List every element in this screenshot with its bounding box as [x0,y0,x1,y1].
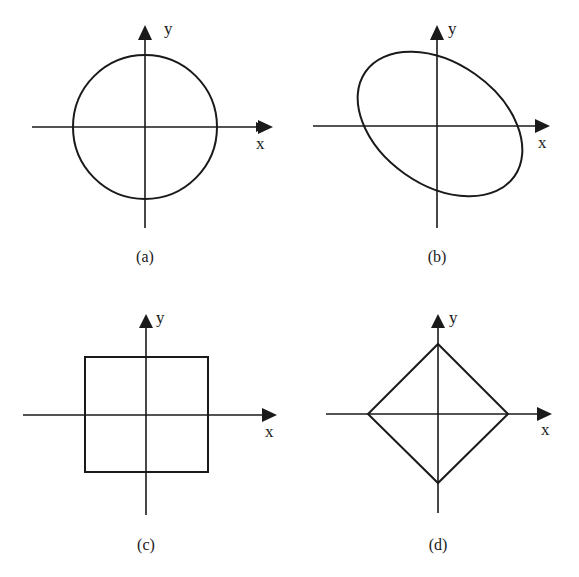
figure-canvas: y x (a) y x (b) y x (c) y x (d) [0,0,579,577]
x-axis-arrow-icon [537,407,552,421]
ellipse-shape [330,22,549,226]
caption-a: (a) [136,248,154,266]
y-axis-arrow-icon [138,25,152,40]
caption-b: (b) [428,248,447,266]
x-label: x [256,134,265,153]
y-label: y [449,308,458,327]
y-label: y [164,19,173,38]
panel-d: y x (d) [326,308,552,554]
x-axis-arrow-icon [258,120,273,134]
caption-c: (c) [137,536,155,554]
y-label: y [448,19,457,38]
y-label: y [156,308,165,327]
y-axis-arrow-icon [430,25,444,40]
y-axis-arrow-icon [139,314,153,328]
x-label: x [265,422,274,441]
panel-c: y x (c) [23,308,277,554]
x-label: x [541,420,550,439]
x-label: x [538,133,547,152]
caption-d: (d) [429,536,448,554]
x-axis-arrow-icon [535,119,550,133]
x-axis-arrow-icon [262,408,277,422]
panel-a: y x (a) [32,19,273,266]
y-axis-arrow-icon [431,314,445,328]
panel-b: y x (b) [313,19,550,266]
